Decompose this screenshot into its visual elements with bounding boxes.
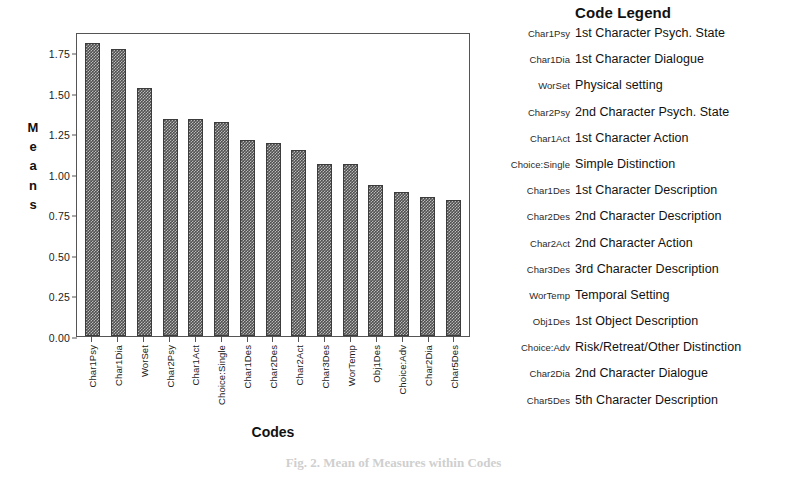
legend-code: Char1Dia xyxy=(496,54,575,65)
y-axis-title: Means xyxy=(22,118,44,214)
legend-code: Char2Act xyxy=(496,238,575,249)
bar-chart: Means 0.000.250.500.751.001.251.501.75 C… xyxy=(0,0,500,480)
bar xyxy=(420,197,435,336)
x-axis-tick-label: Char1Act xyxy=(190,345,201,385)
x-axis-label-slot: Char2Psy xyxy=(157,345,183,425)
legend-code: Choice:Single xyxy=(496,159,575,170)
legend-row: Char1Dia1st Character Dialogue xyxy=(496,52,787,78)
x-axis-tick-label: Char2Act xyxy=(293,345,304,385)
bar-slot xyxy=(157,34,183,336)
bar xyxy=(343,164,358,336)
bar-slot xyxy=(286,34,312,336)
bar xyxy=(368,185,383,336)
x-axis-label-slot: Char2Dia xyxy=(415,345,441,425)
legend-description: 3rd Character Description xyxy=(575,262,719,276)
legend-row: Char2Dia2nd Character Dialogue xyxy=(496,366,787,392)
bar xyxy=(266,143,281,336)
bar xyxy=(394,192,409,336)
y-axis-title-letter: n xyxy=(29,176,37,195)
bar-slot xyxy=(389,34,415,336)
legend-description: 1st Character Dialogue xyxy=(575,52,704,66)
bar xyxy=(137,88,152,336)
bar-slot xyxy=(106,34,132,336)
legend-row: WorSetPhysical setting xyxy=(496,78,787,104)
legend-description: 1st Character Psych. State xyxy=(575,26,725,40)
x-axis-label-slot: Choice:Single xyxy=(208,345,234,425)
legend-description: Temporal Setting xyxy=(575,288,670,302)
x-axis-tick-label: Char5Des xyxy=(448,345,459,389)
legend-row: Char1Act1st Character Action xyxy=(496,131,787,157)
y-axis-tick-label: 1.75 xyxy=(49,48,77,60)
x-axis-label-slot: Char2Des xyxy=(260,345,286,425)
legend-code: Char2Des xyxy=(496,211,575,222)
legend-description: Risk/Retreat/Other Distinction xyxy=(575,340,741,354)
y-axis-tick-label: 1.25 xyxy=(49,129,77,141)
bar xyxy=(163,119,178,336)
legend-row: Choice:AdvRisk/Retreat/Other Distinction xyxy=(496,340,787,366)
legend-code: Choice:Adv xyxy=(496,342,575,353)
x-axis-tick-label: Char2Des xyxy=(267,345,278,389)
y-axis-title-letter: a xyxy=(29,156,36,175)
legend-row: Char2Psy2nd Character Psych. State xyxy=(496,105,787,131)
x-axis-tick-label: Char1Psy xyxy=(86,345,97,388)
bar xyxy=(188,119,203,336)
x-axis-label-slot: Obj1Des xyxy=(363,345,389,425)
bar-slot xyxy=(183,34,209,336)
bar xyxy=(446,200,461,336)
legend-row: Char3Des3rd Character Description xyxy=(496,262,787,288)
x-axis-tick-label: Char1Des xyxy=(242,345,253,389)
y-axis-tick-label: 0.25 xyxy=(49,291,77,303)
y-axis-title-letter: s xyxy=(29,195,36,214)
bar xyxy=(291,150,306,336)
bar xyxy=(85,43,100,336)
x-axis-tick-label: Char2Dia xyxy=(423,345,434,386)
legend-description: 1st Object Description xyxy=(575,314,698,328)
legend-code: Char1Act xyxy=(496,133,575,144)
legend-code: WorSet xyxy=(496,80,575,91)
x-axis-tick-label: WorTemp xyxy=(345,345,356,386)
bar xyxy=(214,122,229,336)
x-axis-tick-label: Char3Des xyxy=(319,345,330,389)
legend-description: 1st Character Action xyxy=(575,131,689,145)
x-axis-label-slot: Char1Des xyxy=(234,345,260,425)
y-axis-tick-label: 1.00 xyxy=(49,170,77,182)
x-axis-label-slot: Char2Act xyxy=(286,345,312,425)
legend-description: Simple Distinction xyxy=(575,157,675,171)
bar-slot xyxy=(80,34,106,336)
x-axis-tick-label: Char1Dia xyxy=(112,345,123,386)
y-axis-title-letter: e xyxy=(29,137,36,156)
legend-code: Obj1Des xyxy=(496,316,575,327)
legend-description: 2nd Character Psych. State xyxy=(575,105,729,119)
legend-row: Char2Act2nd Character Action xyxy=(496,236,787,262)
y-axis-title-letter: M xyxy=(28,118,39,137)
legend-row: Choice:SingleSimple Distinction xyxy=(496,157,787,183)
bar-slot xyxy=(415,34,441,336)
x-axis-label-slot: Char1Act xyxy=(182,345,208,425)
y-axis-tick-label: 0.50 xyxy=(49,251,77,263)
legend-title: Code Legend xyxy=(575,4,787,21)
legend-description: 2nd Character Action xyxy=(575,236,693,250)
legend-row: Char1Des1st Character Description xyxy=(496,183,787,209)
x-axis-label-slot: Choice:Adv xyxy=(389,345,415,425)
x-axis-tick-labels: Char1PsyChar1DiaWorSetChar2PsyChar1ActCh… xyxy=(76,345,470,425)
bar-slot xyxy=(312,34,338,336)
legend-row: Char2Des2nd Character Description xyxy=(496,209,787,235)
bar xyxy=(111,49,126,336)
x-axis-tick-label: Char2Psy xyxy=(164,345,175,388)
legend-code: Char2Dia xyxy=(496,368,575,379)
x-axis-label-slot: WorTemp xyxy=(338,345,364,425)
y-axis-tick-label: 1.50 xyxy=(49,89,77,101)
legend-row: Char5Des5th Character Description xyxy=(496,393,787,419)
legend-code: Char1Psy xyxy=(496,28,575,39)
bar-slot xyxy=(440,34,466,336)
legend-description: Physical setting xyxy=(575,78,663,92)
y-axis-tick-label: 0.75 xyxy=(49,210,77,222)
legend-description: 2nd Character Dialogue xyxy=(575,366,708,380)
bar-slot xyxy=(131,34,157,336)
bar xyxy=(240,140,255,336)
legend-code: WorTemp xyxy=(496,290,575,301)
legend-row: Char1Psy1st Character Psych. State xyxy=(496,26,787,52)
x-axis-tick-label: Obj1Des xyxy=(371,345,382,383)
x-axis-label-slot: Char5Des xyxy=(441,345,467,425)
legend-row: Obj1Des1st Object Description xyxy=(496,314,787,340)
